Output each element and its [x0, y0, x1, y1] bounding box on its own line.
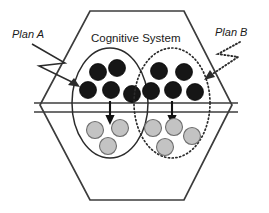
light-node — [112, 120, 129, 137]
light-node — [184, 128, 201, 145]
light-node — [100, 138, 117, 155]
page-title: Cognitive System — [91, 32, 180, 44]
plan-a-pointer — [32, 44, 80, 87]
membrane-divider — [34, 103, 238, 112]
dark-node — [151, 63, 168, 80]
plan-a-light-nodes — [87, 120, 129, 155]
dark-node — [176, 64, 193, 81]
plan-b-label: Plan B — [215, 26, 247, 38]
light-node — [145, 120, 162, 137]
light-node — [157, 139, 174, 156]
dark-node — [165, 82, 182, 99]
dark-node — [103, 82, 120, 99]
dark-node — [90, 64, 107, 81]
plan-a-dark-nodes — [80, 60, 141, 103]
dark-node — [143, 83, 160, 100]
plan-a-pointer-arrowhead — [68, 78, 80, 87]
plan-b-pointer-arrowhead — [204, 70, 215, 80]
dark-node — [80, 82, 97, 99]
dark-node — [124, 86, 141, 103]
cognitive-system-diagram: Plan A Plan B Cognitive System — [0, 0, 269, 213]
plan-b-dark-nodes — [143, 63, 204, 101]
plan-a-label: Plan A — [12, 28, 44, 40]
light-node — [87, 122, 104, 139]
dark-node — [187, 84, 204, 101]
light-node — [166, 119, 183, 136]
dark-node — [109, 60, 126, 77]
diagram-canvas: Plan A Plan B Cognitive System — [0, 0, 269, 213]
plan-a-flow-arrow — [105, 101, 114, 125]
plan-b-pointer-line — [208, 42, 240, 77]
